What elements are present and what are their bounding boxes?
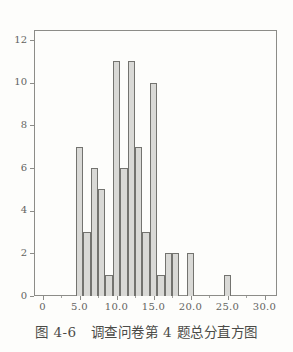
y-axis-tick-label: 4 bbox=[7, 204, 27, 215]
x-axis-tick-label: 30.0 bbox=[248, 301, 282, 312]
x-axis-tick bbox=[80, 296, 81, 300]
histogram-bar bbox=[150, 83, 157, 296]
x-axis-tick bbox=[228, 296, 229, 300]
histogram-bar bbox=[128, 61, 135, 296]
histogram-bar bbox=[224, 275, 231, 296]
figure-page: 05.010.015.020.025.030.0024681012 图 4-6调… bbox=[0, 0, 293, 352]
histogram-bar bbox=[83, 232, 90, 296]
x-axis-tick-label: 0 bbox=[26, 301, 60, 312]
y-axis-tick-label: 10 bbox=[7, 76, 27, 87]
y-axis-tick-label: 2 bbox=[7, 247, 27, 258]
x-axis-tick-label: 15.0 bbox=[137, 301, 171, 312]
y-axis-tick-label: 8 bbox=[7, 119, 27, 130]
histogram-bar bbox=[157, 275, 164, 296]
x-axis-tick-label: 10.0 bbox=[100, 301, 134, 312]
y-axis-tick-label: 0 bbox=[7, 290, 27, 301]
y-axis-tick bbox=[30, 40, 34, 41]
x-axis-tick-label: 20.0 bbox=[174, 301, 208, 312]
x-axis-tick bbox=[154, 296, 155, 300]
histogram-bar bbox=[165, 253, 172, 296]
x-axis-minor-tick bbox=[98, 296, 99, 298]
x-axis-minor-tick bbox=[172, 296, 173, 298]
figure-caption: 图 4-6调查问卷第 4 题总分直方图 bbox=[0, 321, 293, 341]
x-axis-tick bbox=[191, 296, 192, 300]
x-axis-tick-label: 25.0 bbox=[211, 301, 245, 312]
x-axis-tick bbox=[117, 296, 118, 300]
histogram-bar bbox=[113, 61, 120, 296]
y-axis-tick-label: 12 bbox=[7, 34, 27, 45]
x-axis-tick bbox=[265, 296, 266, 300]
histogram-chart: 05.010.015.020.025.030.0024681012 bbox=[0, 0, 293, 352]
figure-caption-number: 图 4-6 bbox=[35, 324, 77, 340]
y-axis-tick bbox=[30, 296, 34, 297]
y-axis-tick bbox=[30, 211, 34, 212]
histogram-bar bbox=[172, 253, 179, 296]
x-axis-tick-label: 5.0 bbox=[63, 301, 97, 312]
x-axis-minor-tick bbox=[135, 296, 136, 298]
histogram-bar bbox=[98, 189, 105, 296]
histogram-bar bbox=[105, 275, 112, 296]
histogram-bar bbox=[142, 232, 149, 296]
histogram-bar bbox=[91, 168, 98, 296]
x-axis-minor-tick bbox=[61, 296, 62, 298]
histogram-bar bbox=[120, 168, 127, 296]
x-axis-minor-tick bbox=[209, 296, 210, 298]
y-axis-tick-label: 6 bbox=[7, 162, 27, 173]
y-axis-tick bbox=[30, 168, 34, 169]
histogram-bar bbox=[76, 147, 83, 296]
x-axis-minor-tick bbox=[246, 296, 247, 298]
histogram-bar bbox=[135, 147, 142, 296]
y-axis-tick bbox=[30, 253, 34, 254]
y-axis-tick bbox=[30, 125, 34, 126]
y-axis-tick bbox=[30, 83, 34, 84]
x-axis-tick bbox=[43, 296, 44, 300]
figure-caption-title: 调查问卷第 4 题总分直方图 bbox=[91, 324, 258, 340]
histogram-bar bbox=[187, 253, 194, 296]
